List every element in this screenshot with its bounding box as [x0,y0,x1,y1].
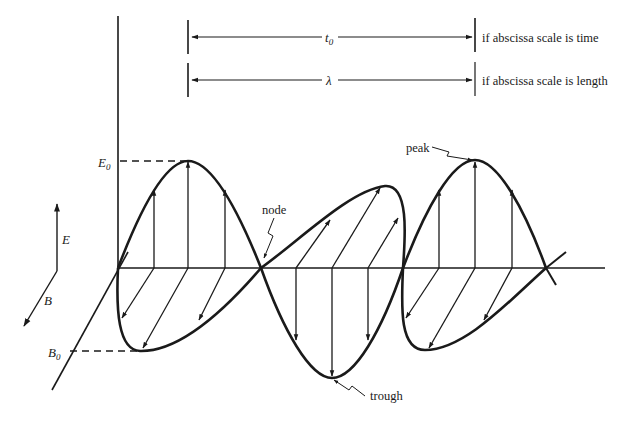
peak-annotation: peak [406,141,472,160]
b0-label: B0 [48,345,61,362]
period-dimension-line [188,18,475,54]
trough-annotation: trough [334,380,403,403]
e-field-wave [118,160,556,378]
length-scale-label: if abscissa scale is length [482,74,608,88]
e0-label: E0 [97,155,111,172]
wavelength-symbol: λ [325,73,332,88]
period-symbol: t0 [325,30,334,47]
peak-label: peak [406,141,430,155]
node-label: node [262,203,287,217]
em-wave-diagram: t0 if abscissa scale is time λ if abscis… [0,0,628,422]
field-orientation-legend: E B [24,204,70,326]
e-field-label: E [61,232,70,247]
b-field-label: B [44,293,52,308]
trough-label: trough [370,389,403,403]
time-scale-label: if abscissa scale is time [482,31,599,45]
